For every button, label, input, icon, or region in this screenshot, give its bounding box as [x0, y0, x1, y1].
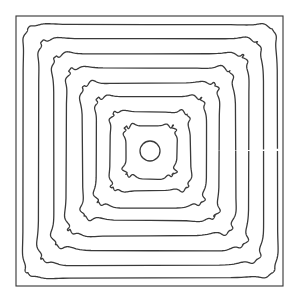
contour-line-8 — [122, 123, 177, 179]
contour-line-1 — [22, 24, 278, 279]
contour-lines — [22, 24, 278, 279]
contour-diagram — [0, 0, 299, 302]
contour-line-4 — [65, 65, 237, 236]
contour-line-5 — [80, 80, 221, 221]
center-circle — [140, 141, 160, 161]
